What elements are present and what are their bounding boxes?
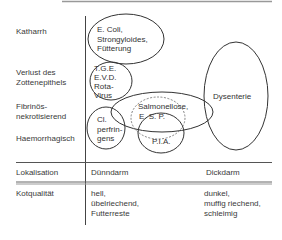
kotqualitaet-dickdarm: dunkel, muffig riechend, schleimig bbox=[204, 189, 261, 219]
label-dysenterie: Dysenterie bbox=[213, 92, 251, 102]
label-salmonellose: Salmonellose, E. S. P. bbox=[138, 102, 188, 121]
row-label-verlust-2: Zottenepithels bbox=[16, 78, 66, 88]
label-pia: P.I.A. bbox=[152, 137, 171, 147]
label-clperfringens: Cl. perfrin- gens bbox=[97, 115, 122, 144]
kotqualitaet-label: Kotqualität bbox=[16, 189, 54, 199]
row-label-katarrh: Katharrh bbox=[16, 27, 47, 37]
row-label-verlust-1: Verlust des bbox=[16, 68, 56, 78]
lokalisation-duenndarm: Dünndarm bbox=[91, 168, 128, 178]
lokalisation-dickdarm: Dickdarm bbox=[206, 168, 240, 178]
label-tge: T.G.E. E.V.D. Rota- Virus bbox=[94, 64, 116, 100]
label-ecoli: E. Coli, Strongyloides, Fütterung bbox=[97, 25, 148, 54]
kotqualitaet-duenndarm: hell, übelriechend, Futterreste bbox=[91, 189, 139, 219]
row-label-fibrin-1: Fibrinös- bbox=[16, 102, 47, 112]
lokalisation-label: Lokalisation bbox=[16, 168, 58, 178]
row-label-fibrin-2: nekrotisierend bbox=[16, 112, 66, 122]
row-label-haemorrhagisch: Haemorrhagisch bbox=[16, 134, 75, 144]
